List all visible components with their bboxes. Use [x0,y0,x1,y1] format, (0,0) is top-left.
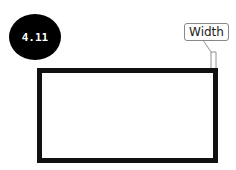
width-label: Width [189,25,224,39]
width-callout: Width [184,23,229,41]
